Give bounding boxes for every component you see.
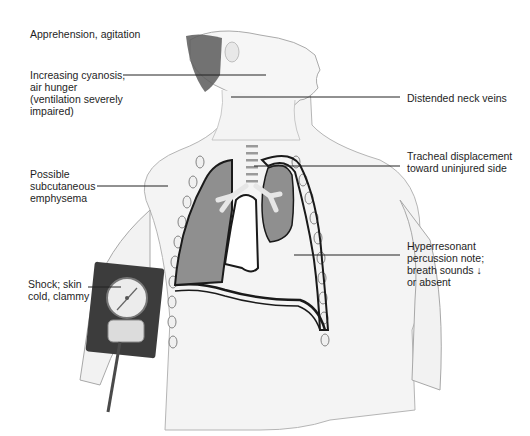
torso-illustration xyxy=(0,0,530,436)
label-tracheal: Tracheal displacement toward uninjured s… xyxy=(407,150,512,174)
label-emphysema: Possible subcutaneous emphysema xyxy=(30,168,95,204)
label-cyanosis: Increasing cyanosis, air hunger (ventila… xyxy=(30,69,125,117)
bp-cuff xyxy=(85,262,164,412)
label-shock: Shock; skin cold, clammy xyxy=(28,278,89,302)
ear xyxy=(225,42,239,62)
bulb-connector xyxy=(108,320,144,342)
label-neck-veins: Distended neck veins xyxy=(407,92,507,104)
label-apprehension: Apprehension, agitation xyxy=(30,28,140,40)
lung-right-collapsed xyxy=(262,165,294,242)
label-hyperresonant: Hyperresonant percussion note; breath so… xyxy=(407,240,484,288)
